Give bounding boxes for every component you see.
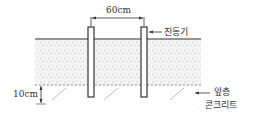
vibrator-label: 진동기 xyxy=(164,27,188,37)
previous-layer-label-1: 앞층 xyxy=(214,87,230,97)
vibrator-right xyxy=(141,27,147,97)
vibrator-left xyxy=(88,27,94,97)
spacing-label: 60cm xyxy=(106,5,131,15)
previous-layer-label-2: 콘크리트 xyxy=(205,100,237,110)
depth-label: 10cm xyxy=(13,89,38,99)
previous-layer-hatch xyxy=(52,88,184,100)
fresh-concrete-layer xyxy=(35,39,201,85)
